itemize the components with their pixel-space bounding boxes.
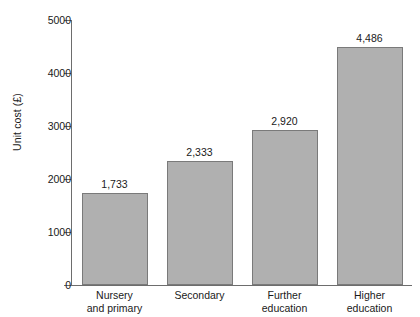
y-axis-tick-label: 2000 xyxy=(29,174,71,185)
y-axis-tick-label: 0 xyxy=(29,280,71,291)
y-axis-tick-label: 1000 xyxy=(29,227,71,238)
y-axis-line xyxy=(71,20,72,286)
category-label-line: Higher xyxy=(327,289,412,302)
bar-value-label: 1,733 xyxy=(75,179,155,190)
category-label-line: Further xyxy=(242,289,327,302)
bar xyxy=(167,161,233,285)
x-axis-line xyxy=(71,285,412,286)
bar-value-label: 4,486 xyxy=(330,33,410,44)
category-label-line: education xyxy=(242,302,327,315)
x-axis-category-label: Furthereducation xyxy=(242,289,327,314)
y-axis-tick-label: 3000 xyxy=(29,121,71,132)
bar xyxy=(252,130,318,285)
bar xyxy=(82,193,148,285)
category-label-line: and primary xyxy=(72,302,157,315)
category-label-line: Secondary xyxy=(157,289,242,302)
x-axis-category-label: Nurseryand primary xyxy=(72,289,157,314)
y-axis-title: Unit cost (£) xyxy=(11,67,23,177)
bar-value-label: 2,333 xyxy=(160,147,240,158)
y-axis-tick-label: 4000 xyxy=(29,68,71,79)
category-label-line: education xyxy=(327,302,412,315)
x-axis-category-label: Highereducation xyxy=(327,289,412,314)
bar xyxy=(337,47,403,285)
y-axis-tick-label: 5000 xyxy=(29,15,71,26)
bar-value-label: 2,920 xyxy=(245,116,325,127)
x-axis-category-label: Secondary xyxy=(157,289,242,302)
category-label-line: Nursery xyxy=(72,289,157,302)
bar-chart: Unit cost (£) 010002000300040005000 1,73… xyxy=(0,0,420,317)
